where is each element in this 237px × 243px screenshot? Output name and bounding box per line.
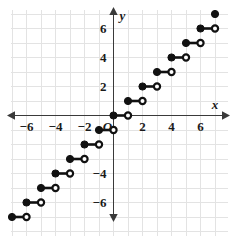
x-axis-arrow-right bbox=[222, 111, 230, 119]
open-endpoint-dot bbox=[81, 156, 87, 162]
open-endpoint-dot bbox=[67, 170, 73, 176]
closed-endpoint-dot bbox=[124, 97, 131, 104]
x-axis-arrow-left bbox=[7, 111, 15, 119]
open-endpoint-dot bbox=[154, 83, 160, 89]
closed-endpoint-dot bbox=[168, 54, 175, 61]
x-axis-tick-label: 4 bbox=[168, 119, 175, 134]
open-endpoint-dot bbox=[212, 25, 218, 31]
closed-endpoint-dot bbox=[153, 68, 160, 75]
x-axis-tick-label: −2 bbox=[78, 119, 92, 134]
y-axis-arrow-down bbox=[109, 214, 117, 222]
origin-label: O bbox=[103, 119, 113, 134]
closed-endpoint-dot bbox=[8, 213, 15, 220]
open-endpoint-dot bbox=[38, 199, 44, 205]
x-axis-tick-label: −4 bbox=[49, 119, 63, 134]
open-endpoint-dot bbox=[125, 112, 131, 118]
open-endpoint-dot bbox=[197, 40, 203, 46]
x-axis-tick-label: −6 bbox=[20, 119, 34, 134]
y-axis-name-label: y bbox=[118, 8, 126, 23]
x-axis-tick-label: 6 bbox=[197, 119, 204, 134]
y-axis-tick-label: −4 bbox=[93, 166, 107, 181]
y-axis-tick-label: 2 bbox=[100, 79, 107, 94]
closed-endpoint-dot bbox=[139, 83, 146, 90]
open-endpoint-dot bbox=[168, 69, 174, 75]
closed-endpoint-dot bbox=[197, 25, 204, 32]
open-endpoint-dot bbox=[183, 54, 189, 60]
x-axis-name-label: x bbox=[211, 97, 219, 112]
closed-endpoint-dot bbox=[81, 141, 88, 148]
y-axis-arrow-up bbox=[109, 7, 117, 15]
closed-endpoint-dot bbox=[66, 155, 73, 162]
closed-endpoint-dot bbox=[37, 184, 44, 191]
closed-endpoint-dot bbox=[23, 199, 30, 206]
closed-endpoint-dot bbox=[95, 126, 102, 133]
open-endpoint-dot bbox=[96, 141, 102, 147]
coordinate-plane-svg: −6−4−2246642−4−6Oxy bbox=[0, 0, 237, 243]
closed-endpoint-dot bbox=[182, 39, 189, 46]
open-endpoint-dot bbox=[23, 214, 29, 220]
open-endpoint-dot bbox=[139, 98, 145, 104]
closed-endpoint-dot bbox=[211, 10, 218, 17]
step-function-graph-figure: −6−4−2246642−4−6Oxy bbox=[0, 0, 237, 243]
axis-labels-layer: −6−4−2246642−4−6Oxy bbox=[20, 8, 219, 210]
closed-endpoint-dot bbox=[52, 170, 59, 177]
open-endpoint-dot bbox=[52, 185, 58, 191]
y-axis-tick-label: −6 bbox=[93, 195, 107, 210]
y-axis-tick-label: 4 bbox=[100, 50, 107, 65]
x-axis-tick-label: 2 bbox=[139, 119, 146, 134]
y-axis-tick-label: 6 bbox=[100, 21, 107, 36]
